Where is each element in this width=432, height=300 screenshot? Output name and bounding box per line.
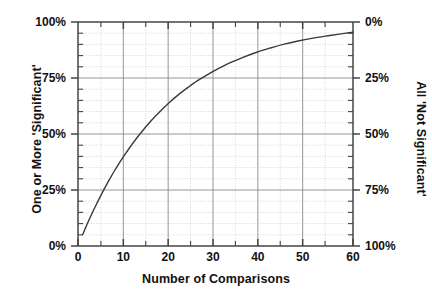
x-axis-title: Number of Comparisons	[78, 272, 354, 286]
tick-label-layer: 100% 75% 50% 25% 0% 0% 25% 50% 75% 100% …	[0, 0, 432, 300]
y-left-tick-100: 100%	[18, 15, 66, 29]
x-tick-60: 60	[346, 250, 359, 264]
x-tick-20: 20	[161, 250, 174, 264]
chart-figure: 100% 75% 50% 25% 0% 0% 25% 50% 75% 100% …	[0, 0, 432, 300]
y-right-tick-75: 75%	[365, 183, 415, 197]
y-right-tick-100: 100%	[365, 239, 415, 253]
x-tick-30: 30	[206, 250, 219, 264]
x-tick-10: 10	[117, 250, 130, 264]
y-right-tick-50: 50%	[365, 127, 415, 141]
x-tick-0: 0	[75, 250, 82, 264]
y-right-tick-25: 25%	[365, 71, 415, 85]
x-tick-50: 50	[296, 250, 309, 264]
x-tick-40: 40	[251, 250, 264, 264]
y-right-tick-0: 0%	[365, 15, 415, 29]
y-axis-left-title: One or More 'Significant'	[30, 29, 44, 249]
y-axis-right-title: All 'Not Significant'	[414, 29, 428, 249]
